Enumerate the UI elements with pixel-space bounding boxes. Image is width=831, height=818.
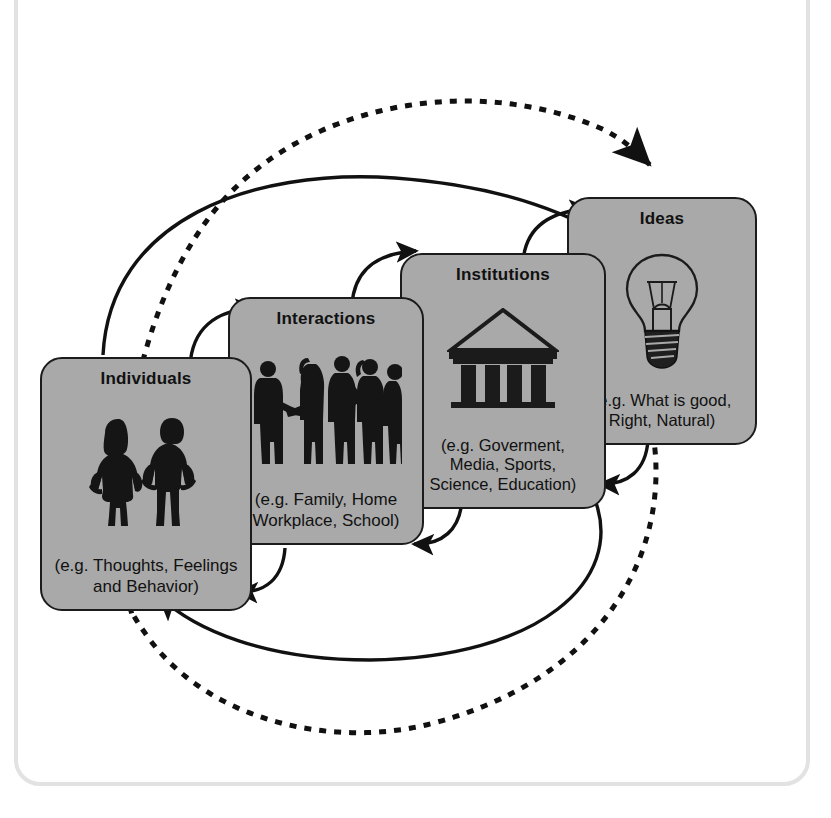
classical-temple-icon (402, 285, 604, 436)
box-caption-individuals: (e.g. Thoughts, Feelings and Behavior) (46, 556, 245, 609)
group-conversation-silhouette-icon (230, 329, 422, 491)
concept-box-individuals[interactable]: Individuals (e (40, 357, 252, 611)
box-title-individuals: Individuals (101, 369, 192, 389)
box-title-ideas: Ideas (640, 209, 684, 229)
box-title-interactions: Interactions (277, 309, 376, 329)
concept-box-interactions[interactable]: Interactions (228, 297, 424, 545)
box-caption-interactions: (e.g. Family, Home Workplace, School) (244, 490, 407, 543)
two-people-silhouette-icon (42, 389, 250, 557)
box-caption-institutions: (e.g. Goverment, Media, Sports, Science,… (422, 436, 585, 507)
box-title-institutions: Institutions (456, 265, 550, 285)
concept-box-institutions[interactable]: Institutions (e.g. Goverment, Media, Spo… (400, 253, 606, 509)
box-caption-ideas: (e.g. What is good, Right, Natural) (585, 391, 740, 443)
